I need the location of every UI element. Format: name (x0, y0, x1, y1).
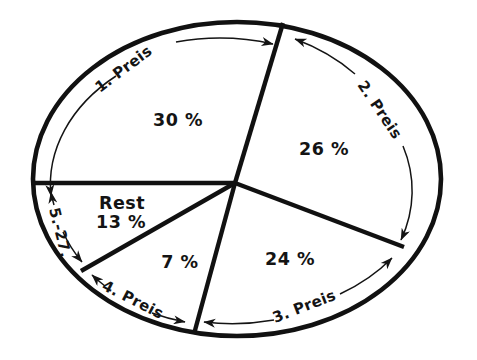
slice-label-4-preis-percent: 7 % (161, 252, 198, 272)
slice-label-rest-percent: 13 % (96, 212, 146, 232)
slice-label-3-preis-percent: 24 % (265, 249, 315, 269)
slice-label-1-preis-percent: 30 % (153, 110, 203, 130)
slice-label-rest-name: Rest (99, 193, 145, 213)
pie-chart-figure: 30 % 26 % 24 % 7 % Rest 13 % 1. Preis 2.… (0, 0, 477, 360)
pie-chart-svg: 30 % 26 % 24 % 7 % Rest 13 % 1. Preis 2.… (0, 0, 477, 360)
slice-label-2-preis-percent: 26 % (299, 139, 349, 159)
